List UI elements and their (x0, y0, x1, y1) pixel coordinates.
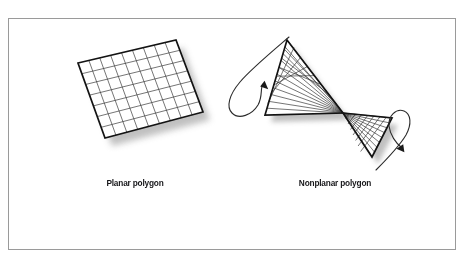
figure-illustration (0, 0, 466, 269)
page-background (0, 0, 466, 269)
nonplanar-polygon-caption: Nonplanar polygon (266, 178, 404, 188)
figure-root: Planar polygon Nonplanar polygon (0, 0, 466, 269)
planar-polygon-caption: Planar polygon (66, 178, 204, 188)
